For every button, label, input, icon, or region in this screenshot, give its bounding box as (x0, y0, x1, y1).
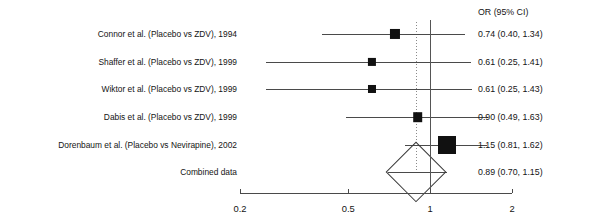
forest-plot: OR (95% CI)Connor et al. (Placebo vs ZDV… (0, 0, 603, 219)
study-marker-square (368, 85, 376, 93)
or-value: 0.89 (0.70, 1.15) (478, 167, 543, 177)
x-axis-tick-label: 2 (509, 203, 514, 214)
or-value: 0.74 (0.40, 1.34) (478, 29, 543, 39)
study-marker-square (390, 29, 400, 39)
x-axis-tick-label: 1 (428, 203, 433, 214)
study-label: Wiktor et al. (Placebo vs ZDV), 1999 (102, 84, 237, 94)
x-axis-tick (430, 189, 431, 193)
study-marker-square (368, 58, 376, 66)
or-value: 0.61 (0.25, 1.43) (478, 84, 543, 94)
study-label: Connor et al. (Placebo vs ZDV), 1994 (98, 29, 237, 39)
or-value: 0.90 (0.49, 1.63) (478, 112, 543, 122)
x-axis-tick (512, 189, 513, 193)
x-axis-tick (240, 189, 241, 193)
x-axis-tick-label: 0.2 (233, 203, 246, 214)
study-label: Shaffer et al. (Placebo vs ZDV), 1999 (98, 57, 237, 67)
x-axis-tick-label: 0.5 (342, 203, 355, 214)
x-axis-line (240, 193, 512, 194)
study-label: Dorenbaum et al. (Placebo vs Nevirapine)… (58, 140, 237, 150)
or-column-header: OR (95% CI) (478, 7, 528, 17)
x-axis-tick (348, 189, 349, 193)
or-value: 0.61 (0.25, 1.41) (478, 57, 543, 67)
study-label: Combined data (180, 167, 237, 177)
study-marker-square (413, 112, 423, 122)
study-marker-square (438, 136, 456, 154)
null-reference-line (430, 20, 431, 193)
or-value: 1.15 (0.81, 1.62) (478, 140, 543, 150)
study-label: Dabis et al. (Placebo vs ZDV), 1999 (104, 112, 237, 122)
